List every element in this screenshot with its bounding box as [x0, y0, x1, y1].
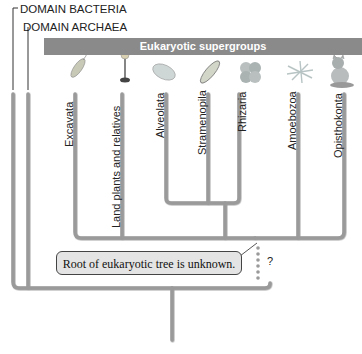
ciliate-icon	[150, 61, 178, 84]
root-unknown-callout: Root of eukaryotic tree is unknown.	[56, 251, 242, 275]
bacteria-leader-line	[13, 8, 18, 90]
diatom-icon	[198, 58, 223, 85]
callout-pointer	[240, 243, 257, 256]
label-opisthokonta: Opisthokonta	[332, 93, 344, 158]
domain-bacteria-label: DOMAIN BACTERIA	[20, 3, 127, 15]
label-land-plants: Land plants and relatives	[110, 106, 122, 228]
amoeba-icon	[287, 61, 313, 83]
foraminifera-icon	[240, 62, 261, 83]
label-rhizaria: Rhizaria	[236, 92, 248, 132]
uncertain-root-marker: ?	[267, 255, 273, 267]
plant-icon	[120, 51, 130, 83]
supergroups-banner: Eukaryotic supergroups	[44, 38, 362, 55]
label-amoebozoa: Amoebozoa	[286, 91, 298, 150]
uncertain-root-dots	[256, 246, 260, 280]
label-stramenopila: Stramenopila	[196, 90, 208, 155]
label-excavata: Excavata	[63, 102, 75, 147]
branch-root-right	[172, 283, 270, 288]
domain-archaea-label: DOMAIN ARCHAEA	[23, 21, 127, 33]
label-alveolata: Alveolata	[154, 93, 166, 138]
cat-icon	[330, 55, 354, 88]
